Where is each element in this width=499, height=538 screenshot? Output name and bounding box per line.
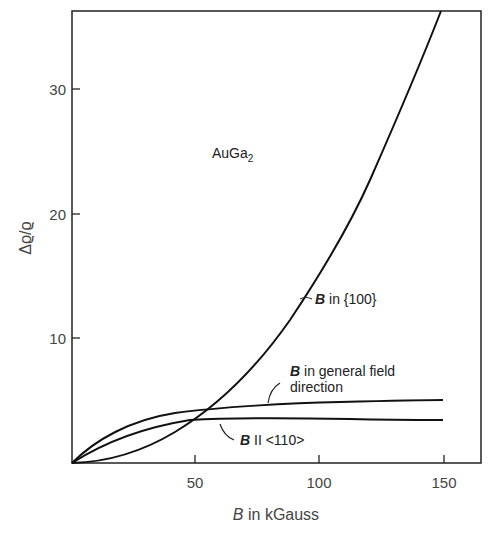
y-axis-title: Δϱ/ϱ <box>17 221 34 254</box>
x-tick-label: 50 <box>187 474 204 491</box>
material-label: AuGa2 <box>212 145 254 164</box>
series-label-100: B in {100} <box>315 291 377 307</box>
x-tick-label: 150 <box>431 474 456 491</box>
x-axis: 50 100 150 B in kGauss <box>187 455 457 523</box>
series-b-in-100 <box>72 11 441 463</box>
series-label-110: B II <110> <box>240 432 304 448</box>
x-axis-title: B in kGauss <box>233 506 319 523</box>
y-tick-label: 30 <box>49 81 66 98</box>
chart-canvas: 30 20 10 Δϱ/ϱ 50 100 150 B in kGauss AuG… <box>0 0 499 538</box>
y-tick-label: 20 <box>49 206 66 223</box>
series-label-general: B in general field <box>290 363 395 379</box>
leader-line <box>268 383 280 403</box>
series-label-general-line2: direction <box>290 379 343 395</box>
y-axis: 30 20 10 Δϱ/ϱ <box>17 81 80 347</box>
plot-frame <box>72 11 481 463</box>
leader-line <box>220 424 234 440</box>
x-tick-label: 100 <box>306 474 331 491</box>
y-tick-label: 10 <box>49 330 66 347</box>
leader-line <box>300 298 312 300</box>
